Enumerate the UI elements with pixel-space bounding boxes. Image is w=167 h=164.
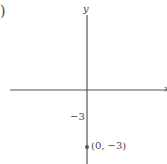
axes-graphic — [0, 0, 167, 164]
point-marker — [85, 145, 89, 149]
point-label: (0, −3) — [91, 141, 126, 151]
coordinate-plane-figure: ) y x −3 (0, −3) — [0, 0, 167, 164]
panel-marker: ) — [0, 4, 5, 18]
x-axis-label: x — [164, 84, 167, 94]
y-axis-label: y — [83, 4, 89, 14]
y-tick-label: −3 — [70, 112, 85, 122]
